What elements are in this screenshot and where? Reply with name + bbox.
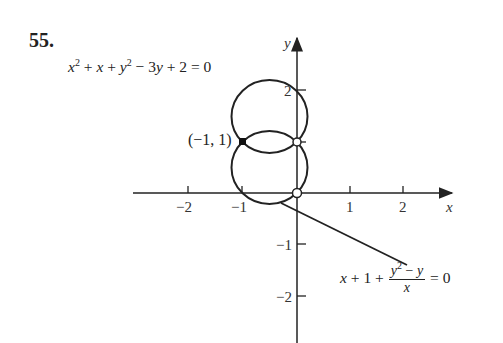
svg-text:1: 1 — [346, 199, 354, 215]
graph: −2 −1 1 2 x 2 −1 −2 y — [0, 0, 503, 343]
open-point-0-1 — [293, 138, 301, 146]
svg-text:2: 2 — [399, 199, 407, 215]
svg-text:−2: −2 — [176, 199, 192, 215]
svg-text:−1: −1 — [276, 237, 292, 253]
svg-text:−2: −2 — [276, 289, 292, 305]
open-point-origin — [293, 189, 302, 198]
filled-point — [239, 138, 246, 145]
svg-text:−1: −1 — [231, 199, 247, 215]
svg-text:x: x — [445, 199, 453, 215]
leader-line — [281, 203, 407, 265]
svg-text:y: y — [282, 35, 291, 51]
